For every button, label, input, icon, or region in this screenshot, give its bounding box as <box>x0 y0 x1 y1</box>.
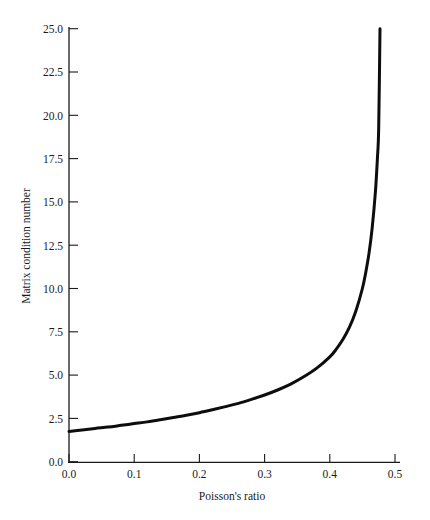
y-tick-label: 17.5 <box>43 153 63 165</box>
y-tick-label: 0.0 <box>49 456 64 468</box>
x-axis-tick-labels: 0.0 0.1 0.2 0.3 0.4 0.5 <box>62 468 403 480</box>
chart-figure: 25.0 22.5 20.0 17.5 15.0 12.5 10.0 7.5 5… <box>0 0 430 520</box>
y-tick-label: 25.0 <box>43 23 63 35</box>
x-tick-label: 0.4 <box>323 468 338 480</box>
y-tick-label: 20.0 <box>43 110 63 122</box>
x-tick-label: 0.0 <box>62 468 77 480</box>
y-tick-label: 15.0 <box>43 196 63 208</box>
y-tick-label: 7.5 <box>49 326 64 338</box>
y-axis-ticks <box>69 29 78 462</box>
x-tick-label: 0.1 <box>127 468 142 480</box>
y-tick-label: 2.5 <box>49 413 64 425</box>
x-tick-label: 0.3 <box>257 468 272 480</box>
x-tick-label: 0.5 <box>388 468 403 480</box>
y-tick-label: 12.5 <box>43 240 63 252</box>
y-tick-label: 22.5 <box>43 66 63 78</box>
x-tick-label: 0.2 <box>192 468 207 480</box>
x-axis-ticks <box>69 454 395 462</box>
data-series-line <box>69 29 380 432</box>
y-tick-label: 10.0 <box>43 283 63 295</box>
y-axis-tick-labels: 25.0 22.5 20.0 17.5 15.0 12.5 10.0 7.5 5… <box>43 23 63 468</box>
line-chart: 25.0 22.5 20.0 17.5 15.0 12.5 10.0 7.5 5… <box>0 0 430 520</box>
x-axis-title: Poisson's ratio <box>199 490 266 502</box>
y-tick-label: 5.0 <box>49 369 64 381</box>
y-axis-title: Matrix condition number <box>20 188 32 304</box>
